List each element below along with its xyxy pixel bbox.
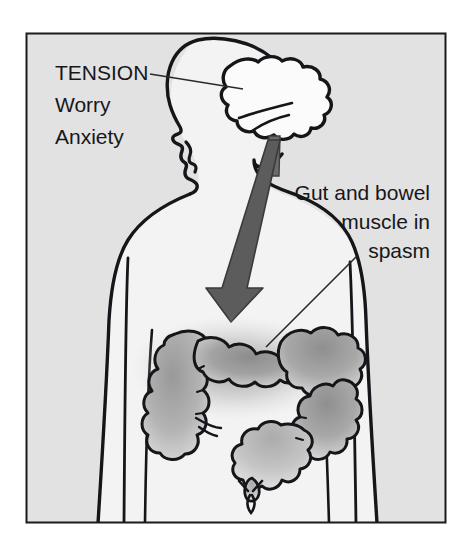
gut-label-line-2: muscle in [341, 210, 430, 233]
gut-label-line-3: spasm [368, 239, 430, 262]
tension-label-line-2: Worry [55, 93, 111, 116]
brain [221, 57, 331, 140]
tension-label-line-1: TENSION [55, 61, 148, 84]
stress-gut-illustration: TENSION Worry Anxiety Gut and bowel musc… [0, 0, 471, 557]
tension-label-line-3: Anxiety [55, 125, 124, 148]
gut-label-line-1: Gut and bowel [295, 181, 430, 204]
illustration-root: TENSION Worry Anxiety Gut and bowel musc… [0, 0, 471, 557]
